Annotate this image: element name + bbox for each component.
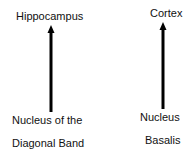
nucleus-label: Nucleus [140,111,180,123]
nucleus-of-the-label: Nucleus of the [12,114,82,126]
arrows [0,0,195,156]
up-arrow-icon [48,25,55,112]
basalis-label: Basalis [145,134,180,146]
diagonal-band-label: Diagonal Band [12,137,84,149]
up-arrow-icon [160,22,167,109]
